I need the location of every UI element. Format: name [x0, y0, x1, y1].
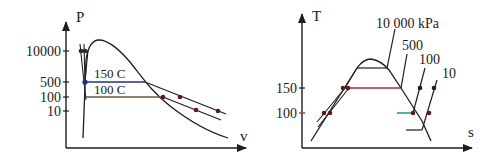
pv-diagram: P v 10000 500 100 10 150 C 100 C — [26, 9, 248, 148]
ts-isobar-label-100: 100 — [419, 52, 440, 67]
pv-y-axis-label: P — [76, 9, 84, 25]
ts-diagram: T s 150 100 10 000 kPa 500 100 10 — [276, 8, 474, 148]
pv-state-point — [82, 79, 87, 84]
ts-isobar-100 — [413, 68, 425, 113]
ts-saturation-dome — [311, 59, 431, 141]
ts-isobar-500 — [401, 54, 407, 88]
diagram-canvas: P v 10000 500 100 10 150 C 100 C — [0, 0, 502, 162]
ts-state-point — [418, 86, 423, 91]
ts-state-point — [341, 86, 346, 91]
pv-state-point — [161, 95, 166, 100]
pv-state-point — [194, 108, 199, 113]
pv-tick-100: 100 — [40, 90, 61, 105]
ts-isobar-label-10: 10 — [442, 66, 456, 81]
pv-x-axis-label: v — [240, 128, 248, 144]
pv-state-point — [216, 109, 221, 114]
pv-isotherm-label-150: 150 C — [94, 66, 125, 81]
ts-state-point — [328, 111, 333, 116]
ts-tick-100: 100 — [276, 106, 297, 121]
ts-state-point — [411, 111, 416, 116]
ts-isobar-label-10000: 10 000 kPa — [376, 16, 440, 31]
ts-state-point — [322, 111, 327, 116]
pv-isotherm-label-100: 100 C — [94, 82, 125, 97]
ts-state-point — [432, 86, 437, 91]
ts-state-point — [346, 86, 351, 91]
ts-tick-150: 150 — [276, 81, 297, 96]
ts-liquid-isobar — [318, 88, 349, 127]
pv-state-point — [178, 95, 183, 100]
pv-tick-500: 500 — [40, 75, 61, 90]
ts-y-axis-label: T — [312, 8, 321, 24]
ts-isobar-label-500: 500 — [402, 38, 423, 53]
ts-x-axis-label: s — [468, 124, 474, 140]
pv-state-point — [79, 49, 84, 54]
pv-tick-10: 10 — [47, 104, 61, 119]
ts-state-point — [427, 111, 432, 116]
pv-tick-10000: 10000 — [26, 44, 61, 59]
pv-superheat-150 — [145, 82, 226, 114]
ts-isobar-10000 — [387, 29, 395, 68]
pv-state-point — [83, 49, 88, 54]
